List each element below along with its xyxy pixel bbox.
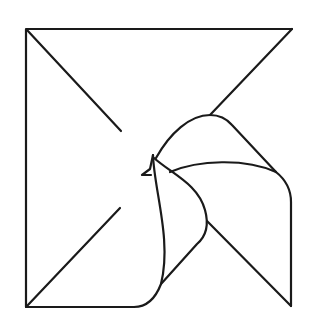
diagonal-upper-left	[27, 30, 121, 131]
folded-square-bird-drawing	[0, 0, 310, 333]
square-bottom-edge	[26, 284, 161, 307]
diagonal-lower-right	[207, 221, 291, 306]
diagonal-lower-left	[27, 208, 120, 306]
figure-canvas: Line drawing of a square divided by diag…	[0, 0, 310, 333]
bird-beak	[142, 155, 153, 175]
bird-body-left	[153, 155, 165, 284]
diagonal-upper-right	[210, 29, 292, 115]
curl-inner-fold	[170, 162, 276, 172]
curl-right-edge	[276, 172, 291, 306]
